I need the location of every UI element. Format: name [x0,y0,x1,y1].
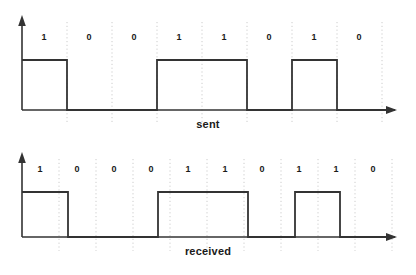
bit-label-received-0: 1 [37,164,42,174]
bit-label-sent-4: 1 [221,32,226,42]
waveform-trace-sent [22,60,395,110]
bit-label-received-3: 0 [148,164,153,174]
bit-label-received-9: 0 [370,164,375,174]
caption-received: received [0,245,416,257]
bit-label-sent-5: 0 [266,32,271,42]
bit-label-sent-3: 1 [176,32,181,42]
bit-label-sent-6: 1 [311,32,316,42]
y-axis-received [18,152,26,237]
bit-label-received-1: 0 [74,164,79,174]
bit-label-sent-0: 1 [41,32,46,42]
bit-label-sent-2: 0 [131,32,136,42]
waveform-trace-received [22,192,395,237]
bit-label-received-4: 1 [185,164,190,174]
chart-sent: 10011010 sent [0,0,416,140]
chart-received: 1000110110 received [0,135,416,275]
bit-label-sent-1: 0 [86,32,91,42]
bit-labels-received: 1000110110 [37,164,375,174]
bit-label-received-8: 1 [333,164,338,174]
y-axis-sent [18,15,26,110]
bit-label-received-7: 1 [296,164,301,174]
bit-label-received-6: 0 [259,164,264,174]
bit-label-sent-7: 0 [356,32,361,42]
bit-label-received-5: 1 [222,164,227,174]
bit-label-received-2: 0 [111,164,116,174]
caption-sent: sent [0,118,416,130]
